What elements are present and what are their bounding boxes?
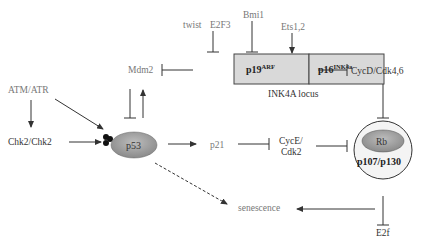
cycd-cdk46-label: CycD/Cdk4,6 bbox=[351, 66, 404, 76]
rb-label: Rb bbox=[376, 137, 387, 147]
cdk2-label: Cdk2 bbox=[281, 147, 302, 157]
e2f-label: E2f bbox=[376, 228, 391, 238]
mdm2-label: Mdm2 bbox=[128, 65, 154, 75]
atm-atr-label: ATM/ATR bbox=[8, 85, 49, 95]
pathway-diagram: p19ARF p16INK4a INK4A locus twist E2F3 B… bbox=[0, 0, 421, 242]
senescence-label: senescence bbox=[238, 203, 280, 213]
p53-label: p53 bbox=[126, 140, 141, 151]
p21-label: p21 bbox=[210, 140, 225, 150]
rb-complex-node bbox=[354, 121, 412, 179]
ets12-label: Ets1,2 bbox=[281, 22, 305, 32]
chk2-label: Chk2/Chk2 bbox=[8, 137, 52, 147]
bmi1-label: Bmi1 bbox=[243, 10, 264, 20]
twist-label: twist bbox=[183, 20, 202, 30]
cyce-label: CycE/ bbox=[279, 136, 303, 146]
e2f3-label: E2F3 bbox=[210, 20, 231, 30]
ink4a-locus-label: INK4A locus bbox=[268, 89, 319, 99]
p107-p130-label: p107/p130 bbox=[357, 156, 401, 167]
